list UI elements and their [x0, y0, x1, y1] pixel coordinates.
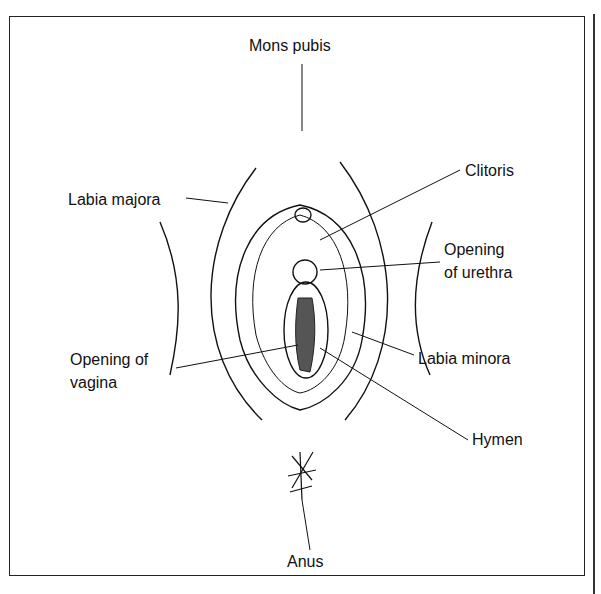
label-opening-urethra-line2: of urethra — [444, 263, 512, 282]
label-opening-vagina-line2: vagina — [70, 373, 117, 392]
label-hymen: Hymen — [472, 430, 523, 449]
anatomy-line-drawing — [0, 0, 601, 594]
label-labia-minora: Labia minora — [418, 349, 511, 368]
label-opening-urethra-line1: Opening — [444, 240, 505, 259]
label-labia-majora: Labia majora — [68, 190, 161, 209]
label-anus: Anus — [287, 552, 323, 571]
label-mons-pubis: Mons pubis — [249, 36, 331, 55]
label-opening-vagina-line1: Opening of — [70, 350, 148, 369]
label-clitoris: Clitoris — [465, 161, 514, 180]
